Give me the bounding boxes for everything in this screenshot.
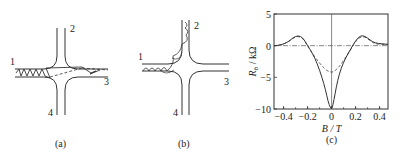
y-tick-label: 5 — [266, 9, 271, 20]
figure: 1 2 3 4 (a) 1 2 3 4 (b) −0.4−0.200.20.4 … — [0, 0, 401, 157]
x-tick-label: 0.4 — [373, 111, 386, 122]
junction-wall-top-left — [15, 28, 57, 69]
panel-c-chart: −0.4−0.200.20.4 50−5−10 B / T Rb / kΩ (c… — [247, 9, 388, 146]
panel-caption-c: (c) — [326, 134, 337, 146]
x-tick-label: 0.2 — [349, 111, 362, 122]
junction-wall-top-right — [65, 28, 108, 69]
panel-b — [142, 20, 229, 115]
plot-frame — [274, 14, 388, 109]
junction-wall-bottom-right — [189, 71, 229, 115]
skipping-orbit-b-arcs — [160, 52, 182, 73]
terminal-label-a-2: 2 — [70, 23, 75, 34]
y-axis-label: Rb / kΩ — [247, 47, 260, 78]
x-axis-label: B / T — [322, 123, 343, 134]
series-line-simulation — [274, 37, 388, 72]
x-tick-label: −0.4 — [275, 111, 293, 122]
y-tick-label: 0 — [266, 41, 271, 52]
panel-caption-a: (a) — [55, 138, 66, 150]
x-tick-label: 0 — [329, 111, 334, 122]
junction-wall-top-left — [142, 20, 182, 64]
terminal-label-b-1: 1 — [138, 51, 143, 62]
terminal-label-a-3: 3 — [104, 76, 109, 87]
x-ticks: −0.4−0.200.20.4 — [275, 106, 386, 122]
terminal-label-b-2: 2 — [194, 20, 199, 31]
terminal-label-a-4: 4 — [48, 107, 53, 118]
y-axis-label-main: R — [247, 70, 258, 77]
terminal-label-b-4: 4 — [173, 107, 178, 118]
junction-wall-bottom-right — [65, 77, 108, 115]
y-tick-label: −10 — [255, 104, 271, 115]
terminal-label-a-1: 1 — [10, 56, 15, 67]
panel-a — [15, 28, 108, 115]
y-tick-label: −5 — [260, 72, 271, 83]
x-tick-label: −0.2 — [299, 111, 317, 122]
series-group — [274, 36, 388, 109]
panel-caption-b: (b) — [178, 138, 190, 150]
y-axis-label-unit: / kΩ — [247, 47, 258, 67]
terminal-label-b-3: 3 — [224, 76, 229, 87]
